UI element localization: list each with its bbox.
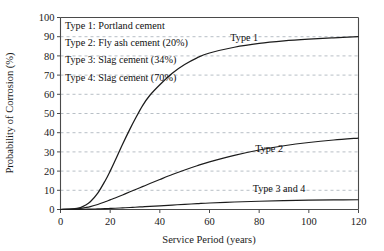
legend-item-3: Type 3: Slag cement (34%)	[65, 54, 176, 66]
y-tick-label: 100	[39, 12, 55, 23]
corrosion-probability-chart: 0102030405060708090100 020406080100120 T…	[0, 0, 384, 251]
y-tick-label: 70	[44, 70, 55, 81]
type-2-curve-label: Type 2	[255, 143, 283, 154]
y-tick-label: 30	[44, 147, 55, 158]
chart-canvas: 0102030405060708090100 020406080100120 T…	[0, 0, 384, 251]
x-tick-label: 60	[204, 216, 215, 227]
x-tick-label: 80	[254, 216, 265, 227]
y-tick-label: 20	[44, 166, 55, 177]
x-tick-label: 40	[155, 216, 166, 227]
legend-item-4: Type 4: Slag cement (70%)	[65, 72, 176, 84]
x-tick-label: 120	[351, 216, 367, 227]
y-tick-label: 90	[44, 31, 55, 42]
legend-item-1: Type 1: Portland cement	[65, 20, 165, 31]
y-tick-label: 10	[44, 185, 55, 196]
x-axis-title: Service Period (years)	[162, 234, 256, 246]
legend-item-2: Type 2: Fly ash cement (20%)	[65, 37, 188, 49]
x-tick-label: 100	[301, 216, 317, 227]
y-axis-title: Probability of Corrosion (%)	[4, 52, 16, 174]
curve-type-2	[61, 138, 359, 209]
x-tick-label: 0	[58, 216, 63, 227]
x-axis-ticks: 020406080100120	[58, 210, 367, 227]
x-tick-label: 20	[105, 216, 116, 227]
y-axis-ticks: 0102030405060708090100	[39, 12, 61, 215]
y-tick-label: 50	[44, 108, 55, 119]
curve-type-3-and-4	[61, 200, 359, 210]
y-tick-label: 40	[44, 127, 55, 138]
type-1-curve-label: Type 1	[230, 32, 258, 43]
legend: Type 1: Portland cementType 2: Fly ash c…	[65, 20, 188, 84]
type-3-4-curve-label: Type 3 and 4	[253, 183, 306, 194]
y-tick-label: 0	[49, 204, 54, 215]
y-tick-label: 80	[44, 51, 55, 62]
y-tick-label: 60	[44, 89, 55, 100]
